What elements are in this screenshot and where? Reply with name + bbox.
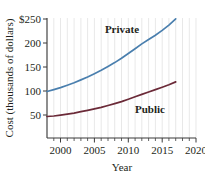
gridlines-group [47, 18, 196, 138]
x-tick-label-2000: 2000 [50, 144, 73, 156]
x-axis [47, 138, 196, 143]
public-series-label: Public [135, 103, 165, 115]
cost-of-college-line-chart: $250 200 150 100 50 [0, 0, 205, 185]
y-tick-label-150: 150 [25, 61, 42, 73]
y-tick-label-50: 50 [30, 109, 42, 121]
y-tick-label-200: 200 [25, 37, 42, 49]
y-axis [43, 18, 47, 138]
y-axis-title: Cost (thousands of dollars) [3, 18, 16, 137]
x-tick-label-2020: 2020 [185, 144, 205, 156]
x-tick-label-2010: 2010 [117, 144, 140, 156]
y-tick-label-100: 100 [25, 85, 42, 97]
private-series-label: Private [105, 23, 139, 35]
x-tick-labels: 2000 2005 2010 2015 2020 [50, 144, 206, 156]
chart-figure: $250 200 150 100 50 [0, 0, 205, 185]
x-tick-label-2015: 2015 [151, 144, 174, 156]
x-tick-label-2005: 2005 [83, 144, 106, 156]
y-tick-labels: $250 200 150 100 50 [19, 13, 42, 121]
y-tick-label-250: $250 [19, 13, 42, 25]
x-axis-title: Year [112, 161, 133, 173]
